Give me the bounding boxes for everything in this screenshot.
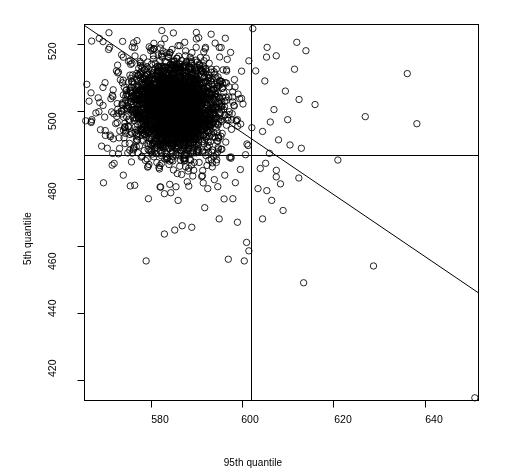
y-tick-label: 420 — [46, 359, 58, 377]
x-tick-label: 620 — [321, 413, 365, 425]
x-tick-label: 600 — [228, 413, 272, 425]
x-axis-title: 95th quantile — [0, 457, 506, 468]
scatter-plot-figure: 580 600 620 640 420 440 460 480 500 520 … — [0, 0, 506, 475]
y-tick-label: 480 — [46, 182, 58, 200]
y-axis-title: 5th quantile — [22, 212, 33, 265]
y-tick-label: 500 — [46, 112, 58, 130]
y-tick-label: 460 — [46, 252, 58, 270]
x-tick-label: 580 — [138, 413, 182, 425]
plot-area-canvas — [0, 0, 506, 475]
y-tick-label: 440 — [46, 299, 58, 317]
y-tick-label: 520 — [46, 42, 58, 60]
x-tick-label: 640 — [412, 413, 456, 425]
